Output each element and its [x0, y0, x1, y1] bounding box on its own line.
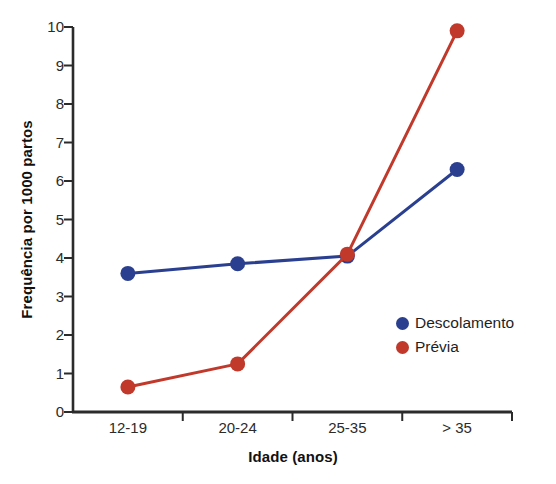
y-tick-label: 4 [34, 249, 64, 266]
data-point [450, 23, 465, 38]
x-tick-label: > 35 [442, 419, 472, 436]
legend-item-previa[interactable]: Prévia [396, 335, 514, 359]
legend-item-descolamento[interactable]: Descolamento [396, 311, 514, 335]
x-tick-label: 25-35 [328, 419, 366, 436]
x-tick-label: 12-19 [109, 419, 147, 436]
y-tick-label: 5 [34, 211, 64, 228]
legend-label-descolamento: Descolamento [415, 314, 514, 332]
y-tick-label: 10 [34, 18, 64, 35]
series-descolamento [120, 162, 464, 281]
data-point [120, 266, 135, 281]
chart-legend: Descolamento Prévia [396, 311, 514, 359]
data-point [340, 247, 355, 262]
line-chart: Frequência por 1000 partos Idade (anos) … [0, 0, 556, 484]
legend-marker-descolamento [396, 317, 409, 330]
y-tick-label: 1 [34, 365, 64, 382]
plot-area [0, 0, 556, 484]
y-tick-label: 6 [34, 172, 64, 189]
y-tick-label: 8 [34, 95, 64, 112]
data-point [450, 162, 465, 177]
legend-marker-previa [396, 341, 409, 354]
y-tick-label: 7 [34, 134, 64, 151]
y-tick-label: 2 [34, 326, 64, 343]
y-tick-label: 9 [34, 57, 64, 74]
y-tick-label: 0 [34, 403, 64, 420]
x-axis-title: Idade (anos) [73, 448, 513, 465]
y-tick-label: 3 [34, 288, 64, 305]
y-axis-ticks [64, 27, 73, 412]
x-tick-label: 20-24 [218, 419, 256, 436]
data-point [120, 379, 135, 394]
legend-label-previa: Prévia [415, 338, 459, 356]
data-point [230, 256, 245, 271]
data-point [230, 356, 245, 371]
